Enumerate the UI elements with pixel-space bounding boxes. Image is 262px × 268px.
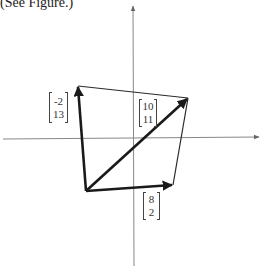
label-u-top: -2 bbox=[54, 95, 63, 108]
label-vector-sum: 10 11 bbox=[139, 99, 157, 127]
y-axis bbox=[133, 6, 134, 266]
label-sum-top: 10 bbox=[143, 100, 154, 113]
vector-diagram bbox=[0, 0, 262, 268]
label-v-bottom: 2 bbox=[149, 206, 155, 219]
vector-v bbox=[86, 185, 172, 191]
label-sum-bottom: 11 bbox=[143, 113, 154, 126]
label-vector-v: 8 2 bbox=[143, 192, 160, 220]
vector-u bbox=[78, 87, 86, 191]
label-u-bottom: 13 bbox=[53, 108, 64, 121]
label-v-top: 8 bbox=[149, 193, 155, 206]
vector-sum bbox=[86, 99, 187, 191]
x-axis bbox=[3, 137, 259, 139]
label-vector-u: -2 13 bbox=[49, 92, 68, 123]
